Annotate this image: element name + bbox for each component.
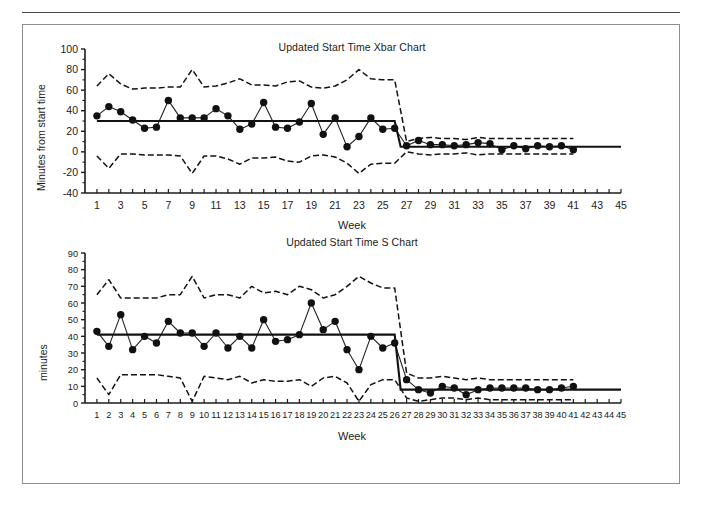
s-x-axis-label: Week (23, 430, 681, 442)
svg-text:29: 29 (425, 199, 437, 211)
svg-text:3: 3 (118, 199, 124, 211)
svg-text:21: 21 (329, 199, 341, 211)
svg-text:43: 43 (592, 410, 602, 420)
svg-text:32: 32 (461, 410, 471, 420)
svg-text:40: 40 (66, 104, 78, 116)
svg-text:16: 16 (270, 410, 280, 420)
svg-text:9: 9 (190, 410, 195, 420)
svg-text:15: 15 (258, 199, 270, 211)
svg-text:70: 70 (68, 282, 78, 292)
svg-text:5: 5 (142, 410, 147, 420)
svg-text:1: 1 (94, 410, 99, 420)
svg-text:36: 36 (509, 410, 519, 420)
svg-text:31: 31 (449, 410, 459, 420)
svg-text:22: 22 (342, 410, 352, 420)
svg-text:15: 15 (259, 410, 269, 420)
svg-text:25: 25 (378, 410, 388, 420)
document-page: Updated Start Time Xbar Chart Minutes fr… (0, 0, 706, 512)
svg-text:40: 40 (556, 410, 566, 420)
svg-text:-40: -40 (63, 187, 78, 199)
svg-text:100: 100 (60, 43, 78, 55)
svg-text:6: 6 (154, 410, 159, 420)
svg-text:37: 37 (521, 410, 531, 420)
svg-text:19: 19 (306, 410, 316, 420)
svg-text:17: 17 (282, 410, 292, 420)
svg-text:20: 20 (318, 410, 328, 420)
svg-text:42: 42 (580, 410, 590, 420)
svg-text:34: 34 (485, 410, 495, 420)
svg-text:80: 80 (66, 63, 78, 75)
svg-text:4: 4 (130, 410, 135, 420)
svg-text:11: 11 (211, 199, 222, 211)
svg-text:14: 14 (247, 410, 257, 420)
svg-text:26: 26 (390, 410, 400, 420)
svg-text:7: 7 (166, 410, 171, 420)
svg-text:18: 18 (294, 410, 304, 420)
xbar-y-axis-label: Minutes from start time (35, 84, 47, 191)
svg-text:27: 27 (401, 199, 413, 211)
svg-text:30: 30 (437, 410, 447, 420)
svg-text:1: 1 (94, 199, 100, 211)
svg-text:9: 9 (189, 199, 195, 211)
xbar-control-chart: Updated Start Time Xbar Chart Minutes fr… (23, 31, 681, 243)
svg-text:35: 35 (497, 410, 507, 420)
svg-text:20: 20 (68, 365, 78, 375)
s-control-chart: Updated Start Time S Chart minutes Week … (23, 231, 681, 471)
svg-text:3: 3 (118, 410, 123, 420)
svg-text:38: 38 (533, 410, 543, 420)
svg-text:60: 60 (66, 84, 78, 96)
s-y-axis-label: minutes (37, 344, 49, 381)
xbar-x-axis-label: Week (23, 219, 681, 231)
svg-text:41: 41 (568, 199, 580, 211)
xbar-plot-area: -40-200204060801001357911131517192123252… (23, 31, 681, 243)
figure-container: Updated Start Time Xbar Chart Minutes fr… (22, 24, 680, 484)
svg-text:19: 19 (305, 199, 317, 211)
svg-text:23: 23 (353, 199, 365, 211)
svg-text:0: 0 (72, 145, 78, 157)
svg-text:12: 12 (223, 410, 233, 420)
svg-text:31: 31 (448, 199, 460, 211)
svg-text:40: 40 (68, 332, 78, 342)
svg-text:25: 25 (377, 199, 389, 211)
svg-text:-20: -20 (63, 166, 78, 178)
svg-text:37: 37 (520, 199, 532, 211)
svg-text:24: 24 (366, 410, 376, 420)
svg-text:27: 27 (401, 410, 411, 420)
svg-text:90: 90 (68, 249, 78, 259)
svg-text:45: 45 (615, 199, 627, 211)
svg-text:30: 30 (68, 349, 78, 359)
svg-text:13: 13 (235, 410, 245, 420)
svg-text:2: 2 (106, 410, 111, 420)
svg-text:8: 8 (178, 410, 183, 420)
svg-text:23: 23 (354, 410, 364, 420)
svg-text:33: 33 (472, 199, 484, 211)
svg-text:21: 21 (330, 410, 340, 420)
svg-text:10: 10 (68, 382, 78, 392)
svg-text:44: 44 (604, 410, 614, 420)
svg-text:10: 10 (199, 410, 209, 420)
svg-text:35: 35 (496, 199, 508, 211)
svg-text:20: 20 (66, 125, 78, 137)
svg-text:33: 33 (473, 410, 483, 420)
svg-text:28: 28 (413, 410, 423, 420)
svg-text:50: 50 (68, 315, 78, 325)
svg-text:43: 43 (591, 199, 603, 211)
svg-text:13: 13 (234, 199, 246, 211)
svg-text:41: 41 (568, 410, 578, 420)
svg-text:7: 7 (165, 199, 171, 211)
svg-text:11: 11 (211, 410, 221, 420)
svg-text:45: 45 (616, 410, 626, 420)
svg-text:5: 5 (142, 199, 148, 211)
svg-text:0: 0 (73, 399, 78, 409)
svg-text:60: 60 (68, 299, 78, 309)
svg-text:39: 39 (544, 199, 556, 211)
svg-text:80: 80 (68, 265, 78, 275)
svg-text:29: 29 (425, 410, 435, 420)
page-top-rule (22, 12, 680, 13)
svg-text:39: 39 (544, 410, 554, 420)
svg-text:17: 17 (282, 199, 294, 211)
